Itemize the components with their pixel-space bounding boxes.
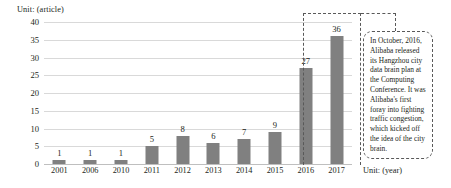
x-axis-tick-label: 2013	[205, 166, 222, 175]
bar[interactable]	[84, 160, 97, 164]
bar-slot: 1	[106, 22, 137, 164]
bar-value-label: 5	[150, 134, 154, 144]
y-axis-tick-label: 30	[13, 53, 39, 63]
y-axis-tick-label: 40	[13, 17, 39, 27]
annotation-callout-text: In October, 2016, Alibaba released its H…	[370, 36, 427, 154]
bar[interactable]	[145, 146, 158, 164]
bar-value-label: 1	[57, 148, 61, 158]
x-axis-tick-label: 2010	[113, 166, 130, 175]
x-axis-tick-label: 2012	[174, 166, 191, 175]
bar-value-label: 1	[88, 148, 92, 158]
x-axis-tick-label: 2017	[328, 166, 345, 175]
bar[interactable]	[114, 160, 127, 164]
bar[interactable]	[207, 143, 220, 164]
bar-slot: 5	[136, 22, 167, 164]
bar[interactable]	[268, 132, 281, 164]
bar-value-label: 9	[273, 120, 277, 130]
bar-slot: 6	[198, 22, 229, 164]
x-axis-unit-label: Unit: (year)	[363, 166, 402, 175]
bar-slot: 1	[44, 22, 75, 164]
bar-slot: 9	[260, 22, 291, 164]
y-axis-tick-label: 15	[13, 106, 39, 116]
y-axis-tick-label: 0	[13, 159, 39, 169]
bar-slot: 7	[229, 22, 260, 164]
callout-connector-line	[361, 13, 396, 15]
x-axis-tick-label: 2014	[236, 166, 253, 175]
bar-value-label: 6	[211, 131, 215, 141]
y-axis-tick-label: 20	[13, 88, 39, 98]
x-axis-tick-label: 2011	[144, 166, 160, 175]
callout-connector-drop	[395, 13, 397, 31]
x-axis-tick-label: 2006	[82, 166, 99, 175]
chart-container: Unit: (article) Unit: (year) 05101520253…	[0, 0, 451, 188]
bar-slot: 1	[75, 22, 106, 164]
annotation-callout-box: In October, 2016, Alibaba released its H…	[363, 31, 433, 159]
y-axis-tick-label: 35	[13, 35, 39, 45]
highlight-region-2016-2017	[303, 13, 361, 165]
bar-value-label: 8	[180, 124, 184, 134]
x-axis-tick-label: 2015	[267, 166, 284, 175]
y-axis-tick-label: 5	[13, 141, 39, 151]
y-axis-tick-label: 10	[13, 124, 39, 134]
bar[interactable]	[238, 139, 251, 164]
bar[interactable]	[53, 160, 66, 164]
x-axis-tick-label: 2001	[51, 166, 68, 175]
bar-value-label: 7	[242, 127, 246, 137]
y-axis-unit-label: Unit: (article)	[17, 5, 64, 14]
bar[interactable]	[176, 136, 189, 164]
y-axis-tick-label: 25	[13, 70, 39, 80]
bar-slot: 8	[167, 22, 198, 164]
x-axis-tick-label: 2016	[298, 166, 315, 175]
bar-value-label: 1	[119, 148, 123, 158]
